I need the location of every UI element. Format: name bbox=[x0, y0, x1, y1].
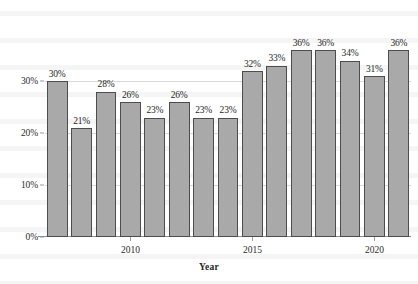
x-tick-label: 2015 bbox=[243, 245, 262, 255]
x-tick-mark bbox=[252, 237, 253, 241]
y-tick-label: 30% bbox=[21, 76, 38, 86]
bar[interactable] bbox=[193, 118, 214, 237]
bar[interactable] bbox=[169, 102, 190, 237]
bar-value-label: 36% bbox=[293, 38, 310, 48]
y-tick-label: 20% bbox=[21, 128, 38, 138]
bar-value-label: 33% bbox=[268, 53, 285, 63]
bar-value-label: 28% bbox=[98, 79, 115, 89]
bar-value-label: 23% bbox=[146, 105, 163, 115]
bar-value-label: 30% bbox=[49, 69, 66, 79]
bar[interactable] bbox=[242, 71, 263, 237]
bar[interactable] bbox=[71, 128, 92, 237]
bar[interactable] bbox=[144, 118, 165, 237]
bar[interactable] bbox=[96, 92, 117, 237]
bar-value-label: 23% bbox=[220, 105, 237, 115]
plot-area: 0%10%20%30%30%21%28%26%23%26%23%23%32%33… bbox=[45, 40, 411, 237]
y-tick-mark bbox=[40, 133, 44, 134]
bar[interactable] bbox=[340, 61, 361, 237]
x-tick-label: 2020 bbox=[365, 245, 384, 255]
bar-value-label: 26% bbox=[122, 90, 139, 100]
x-tick-label: 2010 bbox=[121, 245, 140, 255]
bar[interactable] bbox=[388, 50, 409, 237]
bar[interactable] bbox=[266, 66, 287, 237]
x-tick-mark bbox=[374, 237, 375, 241]
x-tick-mark bbox=[130, 237, 131, 241]
bar-value-label: 23% bbox=[195, 105, 212, 115]
bar-value-label: 36% bbox=[390, 38, 407, 48]
bar[interactable] bbox=[291, 50, 312, 237]
y-tick-label: 0% bbox=[26, 232, 38, 242]
bar[interactable] bbox=[315, 50, 336, 237]
bar[interactable] bbox=[364, 76, 385, 237]
y-tick-mark bbox=[40, 185, 44, 186]
bar-value-label: 36% bbox=[317, 38, 334, 48]
bar-value-label: 34% bbox=[342, 48, 359, 58]
bar-chart-figure: 0%10%20%30%30%21%28%26%23%26%23%23%32%33… bbox=[0, 0, 418, 284]
bar[interactable] bbox=[120, 102, 141, 237]
bar-value-label: 21% bbox=[73, 116, 90, 126]
bar[interactable] bbox=[218, 118, 239, 237]
y-tick-label: 10% bbox=[21, 180, 38, 190]
x-axis-title: Year bbox=[0, 262, 418, 272]
bar-value-label: 32% bbox=[244, 59, 261, 69]
bar[interactable] bbox=[47, 81, 68, 237]
bar-value-label: 26% bbox=[171, 90, 188, 100]
y-tick-mark bbox=[40, 81, 44, 82]
bar-value-label: 31% bbox=[366, 64, 383, 74]
